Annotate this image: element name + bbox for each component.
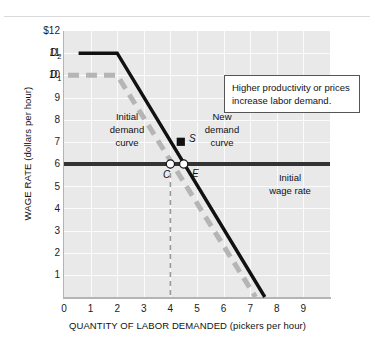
x-tick-label: 7 — [240, 303, 260, 314]
y-tick-label: 1 — [2, 270, 60, 280]
y-axis-title: WAGE RATE (dollars per hour) — [22, 54, 33, 254]
marker-c-label: C — [163, 169, 170, 180]
x-tick-label: 3 — [134, 303, 154, 314]
y-tick-label: $12 — [2, 26, 60, 36]
x-tick-label: 9 — [293, 303, 313, 314]
d1-curve-label: D1 — [50, 69, 61, 83]
curves-overlay — [64, 31, 330, 297]
callout-box: Higher productivity or prices increase l… — [224, 75, 360, 113]
x-axis-title: QUANTITY OF LABOR DEMANDED (pickers per … — [0, 320, 375, 331]
x-tick-label: 6 — [214, 303, 234, 314]
callout-line-2: increase labor demand. — [232, 94, 353, 107]
annotation-new-demand-curve: New demand curve — [181, 110, 263, 149]
x-tick-label: 0 — [54, 303, 74, 314]
annotation-initial-wage-rate: Initial wage rate — [243, 171, 337, 197]
x-axis-line — [63, 297, 331, 299]
d2-curve-label: D2 — [50, 47, 61, 61]
annotation-initial-demand-curve: Initial demand curve — [86, 110, 168, 149]
x-tick-label: 4 — [160, 303, 180, 314]
plot-area: D2 D1 S C E Initial demand curve New dem… — [64, 31, 330, 297]
callout-line-1: Higher productivity or prices — [232, 81, 353, 94]
d2-subscript: 2 — [57, 52, 61, 61]
marker-c — [166, 160, 174, 168]
x-tick-label: 2 — [107, 303, 127, 314]
d1-subscript: 1 — [57, 74, 61, 83]
marker-e-label: E — [192, 168, 199, 179]
marker-e — [180, 160, 188, 168]
x-tick-label: 5 — [187, 303, 207, 314]
figure-container: $12 11 10 9 8 7 6 5 4 3 2 1 WAGE RATE (d… — [0, 0, 375, 346]
x-tick-label: 1 — [81, 303, 101, 314]
x-tick-label: 8 — [267, 303, 287, 314]
